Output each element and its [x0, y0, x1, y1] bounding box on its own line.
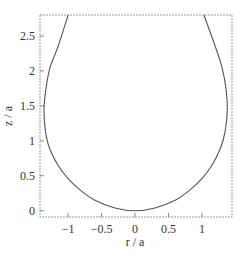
x-tick-label: −0.5	[91, 222, 113, 236]
y-tick-label: 1.5	[20, 99, 35, 113]
x-tick-label: 1	[199, 222, 205, 236]
plot-frame	[40, 15, 232, 217]
y-tick-label: 0.5	[20, 169, 35, 183]
plot-frame-border	[40, 15, 232, 217]
x-tick-label: 0	[132, 222, 138, 236]
x-tick-label: 0.5	[161, 222, 176, 236]
profile-curve	[44, 15, 227, 211]
x-axis-ticks: −1−0.500.51	[62, 213, 205, 236]
y-tick-label: 2.5	[20, 29, 35, 43]
x-axis-label: r / a	[126, 235, 145, 249]
x-tick-label: −1	[62, 222, 75, 236]
y-axis-label: z / a	[1, 105, 15, 126]
y-tick-label: 0	[29, 204, 35, 218]
y-tick-label: 2	[29, 64, 35, 78]
y-tick-label: 1	[29, 134, 35, 148]
chart: −1−0.500.51 00.511.522.5 r / a z / a	[0, 0, 244, 257]
data-series	[44, 15, 227, 211]
